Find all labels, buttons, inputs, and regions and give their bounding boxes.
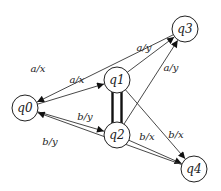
state-diagram: q0q1q2q3q4 a/xa/xa/ya/yb/yb/xb/xb/y	[0, 0, 221, 191]
edge-q0-to-q1	[37, 84, 104, 104]
state-node-q1: q1	[104, 67, 130, 93]
state-node-q4: q4	[181, 156, 207, 182]
state-label: q3	[177, 22, 193, 36]
state-label: q1	[109, 73, 124, 87]
edge-label-q1-to-q4: b/x	[168, 129, 184, 140]
state-label: q0	[17, 101, 33, 115]
edge-q3-to-q0	[37, 35, 173, 102]
edge-q2-to-q4	[129, 140, 182, 163]
edge-q1-to-q4	[126, 90, 186, 159]
state-node-q2: q2	[104, 122, 130, 148]
state-label: q2	[109, 128, 124, 142]
edge-q0-to-q2	[37, 112, 104, 132]
edge-label-q0-to-q1: a/x	[70, 74, 85, 85]
state-label: q4	[186, 162, 201, 176]
state-node-q3: q3	[172, 16, 198, 42]
edge-label-q4-to-q0: b/y	[42, 136, 58, 147]
edge-label-q3-to-q0: a/x	[31, 63, 46, 74]
state-node-q0: q0	[12, 95, 38, 121]
edge-label-q2-to-q4: b/x	[139, 131, 155, 142]
edge-label-q1-to-q3: a/y	[137, 42, 152, 53]
double-bar-link-q1-q2	[113, 91, 122, 124]
edge-label-q0-to-q2: b/y	[77, 111, 93, 122]
edge-label-q2-to-q3: a/y	[164, 62, 179, 73]
